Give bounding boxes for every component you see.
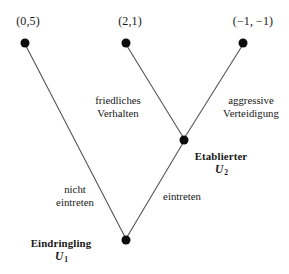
edge-label-friedliches-verhalten-line1: friedliches <box>95 94 141 107</box>
player-eindringling-utility: U1 <box>31 250 92 264</box>
edge-label-nicht-eintreten: nicht eintreten <box>56 183 94 208</box>
payoff-label-middle: (2,1) <box>118 14 142 28</box>
terminal-node-middle <box>122 39 131 48</box>
edge-etablierter-to-payoff-mid <box>127 46 183 137</box>
edge-label-aggressive-verteidigung-line1: aggressive <box>223 94 279 107</box>
edge-label-friedliches-verhalten-line2: Verhalten <box>95 107 141 120</box>
player-etablierter-utility: U2 <box>195 163 248 177</box>
edge-label-aggressive-verteidigung: aggressive Verteidigung <box>223 94 279 119</box>
player-eindringling-utility-index: 1 <box>64 255 68 264</box>
payoff-label-left: (0,5) <box>16 14 40 28</box>
player-eindringling-name: Eindringling <box>31 237 92 250</box>
decision-node-eindringling <box>122 236 131 245</box>
player-eindringling-utility-symbol: U <box>55 250 63 262</box>
terminal-node-left <box>21 39 30 48</box>
edge-label-eintreten-line1: eintreten <box>163 190 201 203</box>
payoff-label-right: (−1, −1) <box>233 14 273 28</box>
player-etablierter: Etablierter U2 <box>195 150 248 176</box>
edge-label-nicht-eintreten-line2: eintreten <box>56 196 94 209</box>
edge-label-nicht-eintreten-line1: nicht <box>56 183 94 196</box>
player-etablierter-utility-index: 2 <box>224 168 228 177</box>
edge-etablierter-to-payoff-right <box>185 46 242 137</box>
player-etablierter-name: Etablierter <box>195 150 248 163</box>
game-tree-diagram: (0,5) (2,1) (−1, −1) friedliches Verhalt… <box>0 0 289 274</box>
player-eindringling: Eindringling U1 <box>31 237 92 263</box>
player-etablierter-utility-symbol: U <box>215 163 223 175</box>
decision-node-etablierter <box>180 136 189 145</box>
edge-label-friedliches-verhalten: friedliches Verhalten <box>95 94 141 119</box>
edge-label-eintreten: eintreten <box>163 190 201 203</box>
edge-label-aggressive-verteidigung-line2: Verteidigung <box>223 107 279 120</box>
terminal-node-right <box>239 39 248 48</box>
